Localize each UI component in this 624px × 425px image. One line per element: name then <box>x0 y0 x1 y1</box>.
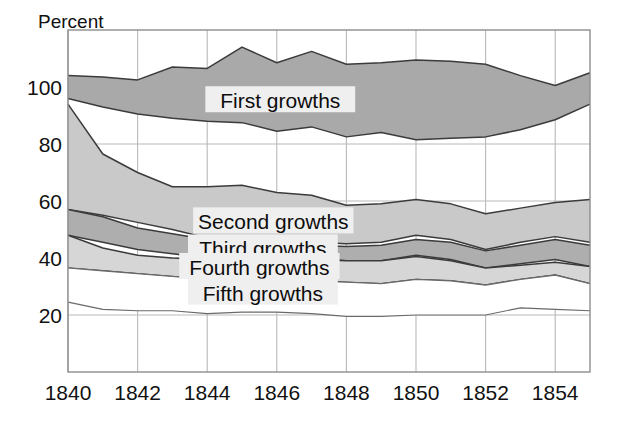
x-tick-label-1852: 1852 <box>462 381 509 404</box>
annotation-fourth-growths: Fourth growths <box>179 253 339 279</box>
annotation-text-first-growths: First growths <box>220 89 340 112</box>
y-tick-label-60: 60 <box>39 190 62 213</box>
y-axis-label: Percent <box>38 11 104 32</box>
annotation-first-growths: First growths <box>205 86 355 112</box>
annotation-text-fourth-growths: Fourth growths <box>189 256 329 279</box>
x-tick-label-1854: 1854 <box>532 381 579 404</box>
annotation-text-second-growths: Second growths <box>198 210 349 233</box>
y-tick-label-40: 40 <box>39 247 62 270</box>
x-tick-label-1840: 1840 <box>45 381 92 404</box>
x-tick-label-1850: 1850 <box>393 381 440 404</box>
annotation-second-growths: Second growths <box>193 207 353 233</box>
band-chart: 20406080100 1840184218441846184818501852… <box>0 0 624 425</box>
x-tick-label-1842: 1842 <box>114 381 161 404</box>
chart-page: 20406080100 1840184218441846184818501852… <box>0 0 624 425</box>
annotation-text-fifth-growths: Fifth growths <box>203 282 323 305</box>
annotation-fifth-growths: Fifth growths <box>188 279 338 305</box>
x-tick-label-1844: 1844 <box>184 381 231 404</box>
y-tick-label-80: 80 <box>39 133 62 156</box>
x-tick-label-1848: 1848 <box>323 381 370 404</box>
y-tick-label-100: 100 <box>27 76 62 99</box>
x-tick-label-1846: 1846 <box>253 381 300 404</box>
y-tick-label-20: 20 <box>39 304 62 327</box>
